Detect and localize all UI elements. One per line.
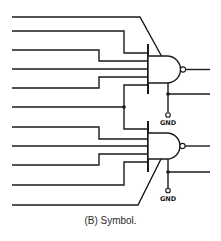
gnd-label-bottom: GND [160,195,176,203]
nand-body [148,133,180,159]
inversion-bubble [180,143,185,148]
input-wire-9 [12,154,148,165]
ground-terminal-icon [166,188,171,193]
nand-gate-top [12,17,210,129]
shared-input-wire [124,85,148,129]
logic-diagram [0,0,221,241]
inversion-bubble [180,67,185,72]
nand-gate-bottom [12,121,210,205]
junction-dot [122,105,126,109]
gnd-label-top: GND [160,119,176,127]
input-wire-3 [12,50,148,61]
input-wire-11 [12,159,161,205]
ground-terminal-icon [166,113,171,118]
figure-caption: (B) Symbol. [0,215,221,226]
nand-body [148,56,181,83]
input-wire-5 [12,77,148,88]
input-wire-1 [12,17,162,57]
